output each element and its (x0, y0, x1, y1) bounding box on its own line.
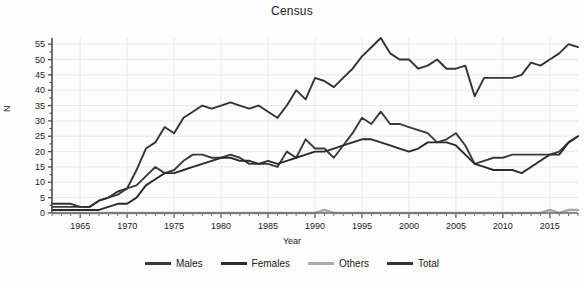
svg-text:40: 40 (35, 85, 45, 95)
legend-entry-total[interactable]: Total (387, 258, 439, 269)
svg-text:1995: 1995 (352, 221, 372, 231)
svg-text:25: 25 (35, 131, 45, 141)
legend-label: Total (418, 258, 439, 269)
census-chart-figure: Census N 0510152025303540455055 19651970… (0, 0, 584, 282)
x-axis-ticks: 1965197019751980198519901995200020052010… (52, 213, 578, 231)
legend-entry-females[interactable]: Females (221, 258, 290, 269)
legend-label: Females (252, 258, 290, 269)
svg-text:2005: 2005 (446, 221, 466, 231)
svg-text:55: 55 (35, 39, 45, 49)
svg-text:30: 30 (35, 116, 45, 126)
legend-swatch-icon (221, 262, 247, 265)
x-axis-label: Year (0, 236, 584, 246)
legend-entry-males[interactable]: Males (145, 258, 203, 269)
svg-text:5: 5 (40, 193, 45, 203)
svg-text:2000: 2000 (399, 221, 419, 231)
svg-text:2015: 2015 (540, 221, 560, 231)
y-axis-ticks: 0510152025303540455055 (35, 39, 52, 218)
svg-text:0: 0 (40, 208, 45, 218)
svg-text:2010: 2010 (493, 221, 513, 231)
svg-text:15: 15 (35, 162, 45, 172)
svg-text:1965: 1965 (70, 221, 90, 231)
svg-text:20: 20 (35, 147, 45, 157)
legend-label: Others (339, 258, 369, 269)
svg-text:45: 45 (35, 70, 45, 80)
svg-text:1975: 1975 (164, 221, 184, 231)
legend-swatch-icon (387, 262, 413, 265)
legend-label: Males (176, 258, 203, 269)
legend-swatch-icon (145, 262, 171, 265)
svg-text:1970: 1970 (117, 221, 137, 231)
chart-legend: MalesFemalesOthersTotal (0, 258, 584, 269)
legend-swatch-icon (308, 262, 334, 265)
svg-text:50: 50 (35, 55, 45, 65)
svg-text:1990: 1990 (305, 221, 325, 231)
svg-text:35: 35 (35, 101, 45, 111)
svg-text:1985: 1985 (258, 221, 278, 231)
svg-text:1980: 1980 (211, 221, 231, 231)
legend-entry-others[interactable]: Others (308, 258, 369, 269)
svg-text:10: 10 (35, 177, 45, 187)
